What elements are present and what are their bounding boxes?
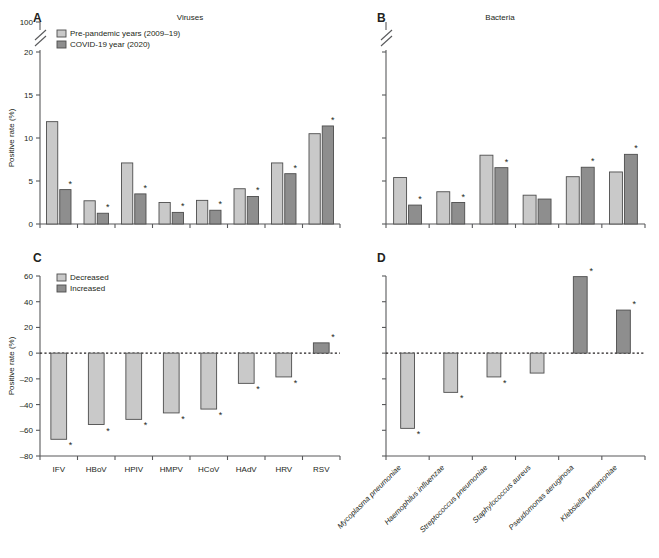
panel-c-xtick-label: IFV bbox=[53, 465, 66, 474]
panel-a-bar-prepandemic bbox=[84, 201, 95, 224]
panel-a-legend-swatch bbox=[57, 30, 66, 37]
panel-a-legend-swatch bbox=[57, 41, 66, 48]
panel-b-significance-star: * bbox=[418, 194, 422, 204]
panel-d-bar bbox=[444, 353, 458, 392]
panel-a-bar-covid bbox=[97, 213, 108, 224]
panel-d-bar bbox=[573, 277, 587, 354]
panel-a-significance-star: * bbox=[181, 201, 185, 211]
panel-b-significance-star: * bbox=[591, 156, 595, 166]
panel-a-bar-prepandemic bbox=[234, 189, 245, 224]
panel-b-bar-prepandemic bbox=[523, 195, 536, 224]
panel-d-bar bbox=[401, 353, 415, 428]
panel-c-ytick-label: 0 bbox=[29, 349, 34, 358]
panel-c-xtick-label: HBoV bbox=[86, 465, 108, 474]
panel-c-significance-star: * bbox=[256, 384, 260, 394]
panel-b-axis-break-mark bbox=[381, 30, 392, 40]
panel-c-xtick-label: HPIV bbox=[124, 465, 143, 474]
panel-a-bar-covid bbox=[247, 196, 258, 224]
panel-c-ytick-label: 40 bbox=[24, 298, 33, 307]
panel-a-significance-star: * bbox=[331, 115, 335, 125]
panel-d-significance-star: * bbox=[589, 266, 593, 276]
panel-d-significance-star: * bbox=[417, 429, 421, 439]
panel-c-xtick-label: HAdV bbox=[236, 465, 258, 474]
panel-b-bar-covid bbox=[409, 205, 422, 224]
panel-d-bar bbox=[530, 353, 544, 373]
panel-a-axis-break-mark bbox=[35, 36, 46, 46]
panel-a-ytick-label: 10 bbox=[24, 134, 33, 143]
panel-a-bar-covid bbox=[210, 210, 221, 224]
panel-a-bar-prepandemic bbox=[47, 122, 58, 224]
panel-c-yaxis-title: Positive rate (%) bbox=[7, 336, 16, 395]
panel-b-bar-prepandemic bbox=[480, 155, 493, 224]
panel-b-bar-prepandemic bbox=[609, 172, 622, 224]
panel-d-significance-star: * bbox=[503, 378, 507, 388]
panel-c-legend-swatch bbox=[57, 285, 66, 292]
panel-a-ytick-label: 15 bbox=[24, 91, 33, 100]
panel-a-bar-prepandemic bbox=[309, 134, 320, 224]
panel-c-ytick-label: –40 bbox=[20, 401, 34, 410]
panel-a-axis-break-mark bbox=[35, 30, 46, 40]
panel-c-bar bbox=[51, 353, 67, 439]
panel-c-ytick-label: –80 bbox=[20, 452, 34, 461]
panel-a-ytick-label-broken: 100 bbox=[20, 18, 34, 27]
panel-b-significance-star: * bbox=[461, 192, 465, 202]
panel-a-legend-label: COVID-19 year (2020) bbox=[70, 40, 150, 49]
panel-b-bar-covid bbox=[452, 203, 465, 225]
panel-a-bar-covid bbox=[172, 212, 183, 224]
panel-d-significance-star: * bbox=[633, 299, 637, 309]
panel-d-significance-star: * bbox=[460, 393, 464, 403]
panel-b-title: Bacteria bbox=[485, 13, 515, 22]
panel-c-bar bbox=[313, 343, 329, 353]
panel-d-bar bbox=[617, 310, 631, 353]
panel-d-letter: D bbox=[377, 251, 386, 265]
panel-c-legend-label: Decreased bbox=[70, 273, 109, 282]
panel-c-ytick-label: 20 bbox=[24, 323, 33, 332]
panel-c-xtick-label: HMPV bbox=[160, 465, 184, 474]
panel-a-significance-star: * bbox=[69, 179, 73, 189]
panel-a-bar-covid bbox=[322, 126, 333, 224]
panel-c-significance-star: * bbox=[144, 420, 148, 430]
panel-a-yaxis-title: Positive rate (%) bbox=[7, 108, 16, 167]
panel-c-legend-swatch bbox=[57, 274, 66, 281]
panel-a-bar-covid bbox=[285, 174, 296, 224]
panel-c-bar bbox=[201, 353, 217, 409]
panel-a-legend-label: Pre-pandemic years (2009–19) bbox=[70, 29, 181, 38]
panel-a-significance-star: * bbox=[144, 183, 148, 193]
figure-root: AViruses05101520100Positive rate (%)Pre-… bbox=[0, 0, 659, 558]
panel-c-bar bbox=[88, 353, 104, 424]
panel-c-significance-star: * bbox=[219, 410, 223, 420]
panel-c-bar bbox=[238, 353, 254, 383]
panel-b-letter: B bbox=[377, 11, 386, 25]
panel-a-letter: A bbox=[33, 11, 42, 25]
panel-a-bar-prepandemic bbox=[197, 200, 208, 224]
panel-c-bar bbox=[163, 353, 179, 413]
panel-c-xtick-label: HCoV bbox=[198, 465, 220, 474]
panel-c-significance-star: * bbox=[106, 426, 110, 436]
panel-c-bar bbox=[276, 353, 292, 377]
panel-a-bar-prepandemic bbox=[159, 203, 170, 225]
panel-b-bar-prepandemic bbox=[566, 177, 579, 224]
panel-c-legend-label: Increased bbox=[70, 284, 105, 293]
panel-a-significance-star: * bbox=[106, 202, 110, 212]
panel-a-ytick-label: 5 bbox=[29, 177, 34, 186]
panel-a-bar-covid bbox=[135, 194, 146, 224]
panel-b-bar-covid bbox=[581, 167, 594, 224]
panel-c-letter: C bbox=[33, 251, 42, 265]
panel-c-ytick-label: –60 bbox=[20, 426, 34, 435]
panel-c-significance-star: * bbox=[69, 440, 73, 450]
panel-b-axis-break-mark bbox=[381, 36, 392, 46]
panel-c-xtick-label: RSV bbox=[313, 465, 330, 474]
panel-a-bar-prepandemic bbox=[122, 163, 133, 224]
panel-a-bar-prepandemic bbox=[272, 163, 283, 224]
panel-b-bar-covid bbox=[538, 199, 551, 224]
panel-a-ytick-label: 20 bbox=[24, 48, 33, 57]
panel-c-xtick-label: HRV bbox=[275, 465, 292, 474]
panel-a-significance-star: * bbox=[219, 199, 223, 209]
panel-b-bar-prepandemic bbox=[437, 192, 450, 224]
panel-c-ytick-label: 60 bbox=[24, 272, 33, 281]
panel-c-ytick-label: –20 bbox=[20, 375, 34, 384]
panel-a-significance-star: * bbox=[256, 185, 260, 195]
panel-c-significance-star: * bbox=[331, 332, 335, 342]
panel-b-bar-covid bbox=[495, 168, 508, 224]
panel-d-bar bbox=[487, 353, 501, 377]
